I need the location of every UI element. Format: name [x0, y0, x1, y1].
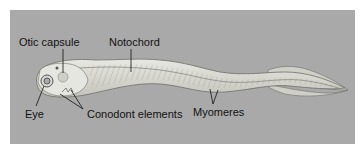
label-myomeres: Myomeres	[193, 106, 244, 118]
label-notochord: Notochord	[109, 36, 160, 48]
label-otic-capsule: Otic capsule	[19, 36, 80, 48]
otic-capsule-shape	[58, 72, 68, 82]
label-eye: Eye	[25, 108, 44, 120]
conodont-illustration	[0, 0, 362, 155]
label-conodont-elements: Conodont elements	[87, 108, 182, 120]
